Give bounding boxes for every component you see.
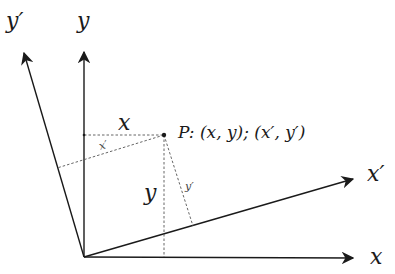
point-p-label: P: (x, y); (x′, y′) <box>178 124 305 141</box>
x-axis-label: x <box>370 246 382 268</box>
point-p <box>162 133 166 137</box>
x-prime-projection-dashed <box>57 135 164 168</box>
y-prime-component-label: y′ <box>185 181 194 192</box>
rotated-axes-diagram: y′ y x′ x x y x′ y′ P: (x, y); (x′, y′) <box>0 0 395 274</box>
y-prime-axis-label: y′ <box>6 10 23 32</box>
y-prime-axis <box>24 53 84 257</box>
x-component-label: x <box>118 112 130 134</box>
x-prime-axis-label: x′ <box>367 163 384 185</box>
y-axis-label: y <box>77 10 89 32</box>
x-prime-axis <box>84 179 353 257</box>
x-intercept-dot <box>83 134 86 137</box>
y-component-label: y <box>144 182 156 204</box>
x-axis <box>84 257 353 258</box>
